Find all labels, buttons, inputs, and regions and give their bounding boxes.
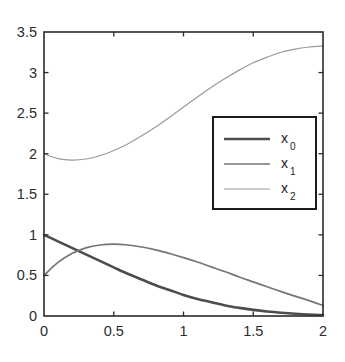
legend-box <box>213 117 316 209</box>
y-tick-label: 3 <box>29 65 37 81</box>
chart-figure: 00.511.52 00.511.522.533.5 x0x1x2 <box>0 0 345 362</box>
y-tick-label: 3.5 <box>17 24 37 40</box>
y-tick-label: 0.5 <box>17 267 37 283</box>
y-tick-label: 1 <box>29 227 37 243</box>
x-tick-label: 2 <box>319 323 327 339</box>
x-tick-label: 1.5 <box>243 323 263 339</box>
y-tick-label: 0 <box>29 308 37 324</box>
x-tick-label: 0.5 <box>104 323 124 339</box>
legend-label-x_1: x <box>281 155 288 171</box>
y-tick-label: 2 <box>29 146 37 162</box>
legend-subscript-x_0: 0 <box>290 141 296 152</box>
legend-label-x_0: x <box>281 130 288 146</box>
legend-subscript-x_1: 1 <box>290 166 296 177</box>
line-chart: 00.511.52 00.511.522.533.5 x0x1x2 <box>0 0 345 362</box>
legend-subscript-x_2: 2 <box>290 191 296 202</box>
y-tick-label: 1.5 <box>17 186 37 202</box>
chart-legend: x0x1x2 <box>213 117 316 209</box>
x-tick-label: 0 <box>40 323 48 339</box>
x-tick-label: 1 <box>179 323 187 339</box>
legend-label-x_2: x <box>281 180 288 196</box>
y-tick-label: 2.5 <box>17 105 37 121</box>
